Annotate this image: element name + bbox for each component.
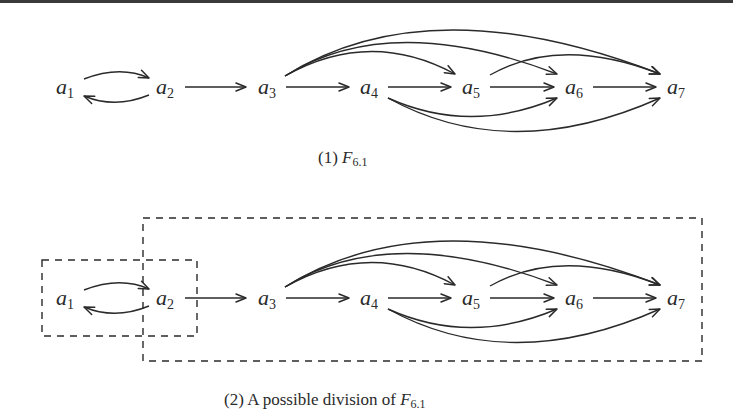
node-subscript: 7 <box>678 86 685 101</box>
panel-1-caption: (1) F6.1 <box>318 148 367 170</box>
edge-a5-a7 <box>490 266 660 286</box>
node-a7: a7 <box>667 287 685 316</box>
node-a2: a2 <box>156 76 174 105</box>
node-a7: a7 <box>667 76 685 105</box>
node-subscript: 5 <box>473 297 480 312</box>
caption-symbol: F <box>400 390 410 409</box>
node-subscript: 2 <box>167 86 174 101</box>
node-a5: a5 <box>462 287 480 316</box>
edge-a3-a5 <box>285 262 455 287</box>
edge-a3-a7 <box>285 241 660 287</box>
node-a3: a3 <box>258 76 276 105</box>
node-subscript: 6 <box>576 86 583 101</box>
node-a2: a2 <box>156 287 174 316</box>
caption-prefix: (2) A possible division of <box>224 390 400 409</box>
node-subscript: 4 <box>371 86 378 101</box>
node-label: a <box>156 285 167 310</box>
node-label: a <box>667 74 678 99</box>
node-subscript: 1 <box>67 297 74 312</box>
caption-prefix: (1) <box>318 148 342 167</box>
edge-a3-a5 <box>285 51 455 76</box>
node-label: a <box>462 74 473 99</box>
node-label: a <box>565 74 576 99</box>
node-label: a <box>360 285 371 310</box>
edge-a2-a1 <box>84 95 149 102</box>
edge-a5-a7 <box>490 55 660 75</box>
graph-diagram <box>0 0 733 420</box>
node-a4: a4 <box>360 76 378 105</box>
node-label: a <box>462 285 473 310</box>
node-label: a <box>156 74 167 99</box>
node-a6: a6 <box>565 76 583 105</box>
panel-2-caption: (2) A possible division of F6.1 <box>224 390 426 412</box>
node-subscript: 5 <box>473 86 480 101</box>
edge-a4-a7 <box>388 309 660 343</box>
node-label: a <box>258 285 269 310</box>
node-subscript: 7 <box>678 297 685 312</box>
edge-a3-a7 <box>285 30 660 76</box>
caption-symbol: F <box>342 148 352 167</box>
node-subscript: 1 <box>67 86 74 101</box>
node-label: a <box>360 74 371 99</box>
edge-a4-a7 <box>388 98 660 132</box>
caption-subscript: 6.1 <box>411 397 426 411</box>
node-subscript: 3 <box>269 86 276 101</box>
node-a4: a4 <box>360 287 378 316</box>
node-label: a <box>56 74 67 99</box>
node-label: a <box>56 285 67 310</box>
node-subscript: 3 <box>269 297 276 312</box>
node-label: a <box>258 74 269 99</box>
node-a1: a1 <box>56 76 74 105</box>
node-label: a <box>565 285 576 310</box>
node-a3: a3 <box>258 287 276 316</box>
edge-a2-a1 <box>84 306 149 313</box>
node-a6: a6 <box>565 287 583 316</box>
group-box-large <box>143 218 702 361</box>
node-subscript: 6 <box>576 297 583 312</box>
node-subscript: 2 <box>167 297 174 312</box>
node-a1: a1 <box>56 287 74 316</box>
edge-a1-a2 <box>84 283 149 290</box>
node-subscript: 4 <box>371 297 378 312</box>
caption-subscript: 6.1 <box>352 155 367 169</box>
node-a5: a5 <box>462 76 480 105</box>
node-label: a <box>667 285 678 310</box>
edge-a1-a2 <box>84 72 149 79</box>
